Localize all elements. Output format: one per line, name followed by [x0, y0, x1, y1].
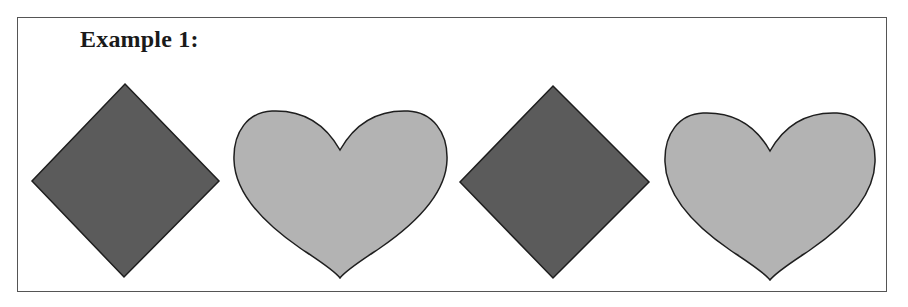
diamond-shape-2	[460, 86, 649, 278]
diamond-shape-1	[32, 84, 219, 277]
shape-sequence	[0, 0, 908, 307]
heart-shape-1	[234, 111, 447, 278]
heart-shape-2	[665, 113, 875, 280]
